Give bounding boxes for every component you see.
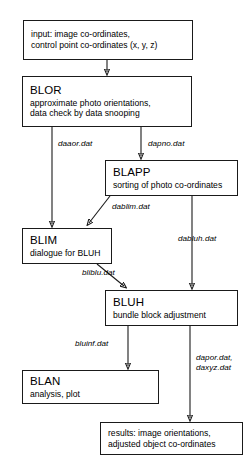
node-blan-title: BLAN xyxy=(30,375,152,389)
edge-label-dapor-dat: dapor.dat, xyxy=(196,353,233,362)
node-input-line-1: input: image co-ordinates, xyxy=(31,29,186,40)
node-results-line-1: results: image orientations, xyxy=(108,428,236,439)
node-input: input: image co-ordinates, control point… xyxy=(23,20,193,60)
node-input-line-2: control point co-ordinates (x, y, z) xyxy=(31,40,186,51)
node-blapp-desc-1: sorting of photo co-ordinates xyxy=(113,180,231,190)
edge-label-dapno-dat: dapno.dat xyxy=(148,139,184,148)
edge-label-bluinf-dat: bluinf.dat xyxy=(75,339,108,348)
flowchart-canvas: input: image co-ordinates, control point… xyxy=(0,0,252,473)
node-blapp-title: BLAPP xyxy=(113,166,231,180)
node-blan-desc-1: analysis, plot xyxy=(30,389,152,399)
connector-blapp-to-blim xyxy=(89,196,110,223)
node-blor-title: BLOR xyxy=(30,84,185,98)
edge-label-dablim-dat: dablim.dat xyxy=(112,202,150,211)
node-results-line-2: adjusted object co-ordinates xyxy=(108,439,236,450)
node-blim: BLIM dialogue for BLUH xyxy=(22,228,112,264)
node-blapp: BLAPP sorting of photo co-ordinates xyxy=(105,160,238,196)
node-bluh: BLUH bundle block adjustment xyxy=(105,290,238,326)
node-results: results: image orientations, adjusted ob… xyxy=(100,422,243,455)
node-blan: BLAN analysis, plot xyxy=(22,370,159,404)
node-blor-desc-1: approximate photo orientations, xyxy=(30,98,185,108)
node-blim-title: BLIM xyxy=(30,234,105,248)
edge-label-daxyz-dat: daxyz.dat xyxy=(196,363,231,372)
node-blor: BLOR approximate photo orientations, dat… xyxy=(22,76,192,127)
edge-label-bliblu-dat: bliblu.dat xyxy=(82,268,115,277)
edge-label-dabluh-dat: dabluh.dat xyxy=(178,234,216,243)
node-bluh-title: BLUH xyxy=(113,296,231,310)
edge-label-daaor-dat: daaor.dat xyxy=(58,139,92,148)
node-blor-desc-2: data check by data snooping xyxy=(30,108,185,118)
node-blim-desc-1: dialogue for BLUH xyxy=(30,248,105,258)
node-bluh-desc-1: bundle block adjustment xyxy=(113,310,231,320)
